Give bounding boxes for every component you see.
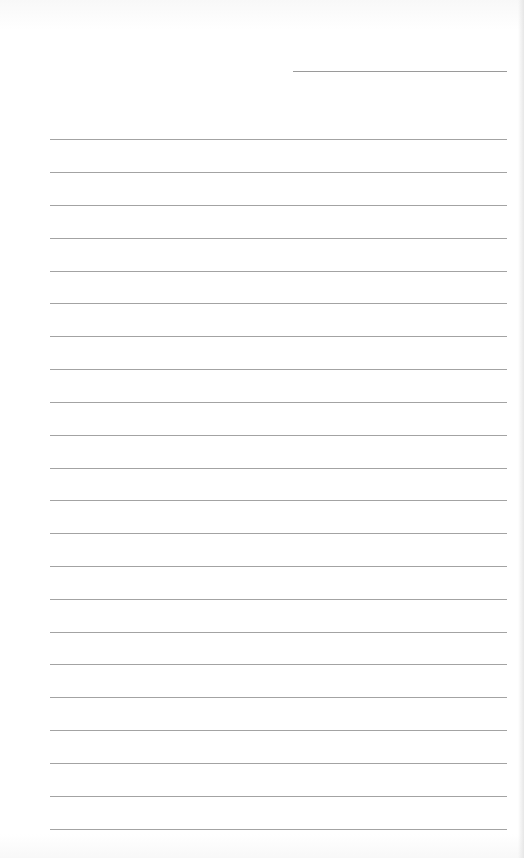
- ruled-line: [50, 271, 507, 272]
- ruled-line: [50, 500, 507, 501]
- ruled-line: [50, 697, 507, 698]
- ruled-line: [50, 172, 507, 173]
- ruled-line: [50, 139, 507, 140]
- ruled-line: [50, 205, 507, 206]
- ruled-line: [50, 369, 507, 370]
- ruled-line: [50, 796, 507, 797]
- ruled-line: [50, 599, 507, 600]
- ruled-line: [50, 664, 507, 665]
- ruled-line: [50, 533, 507, 534]
- ruled-line: [50, 303, 507, 304]
- faint-bleed-through-bottom: [0, 834, 524, 858]
- faint-bleed-through-top: [0, 0, 524, 30]
- page-right-edge-shadow: [518, 0, 524, 858]
- ruled-line: [50, 566, 507, 567]
- ruled-line: [50, 632, 507, 633]
- ruled-line: [50, 829, 507, 830]
- ruled-line: [50, 402, 507, 403]
- ruled-line: [50, 336, 507, 337]
- ruled-line: [50, 730, 507, 731]
- lined-paper-page: [0, 0, 524, 858]
- header-date-line: [293, 71, 507, 72]
- ruled-line: [50, 238, 507, 239]
- ruled-line: [50, 468, 507, 469]
- ruled-line: [50, 763, 507, 764]
- ruled-line: [50, 435, 507, 436]
